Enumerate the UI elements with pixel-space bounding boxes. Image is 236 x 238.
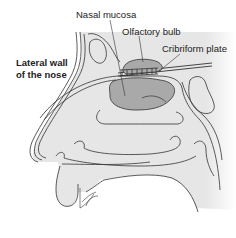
label-nasal-mucosa: Nasal mucosa [76,10,136,20]
label-lateral-wall: Lateral wall of the nose [16,57,76,81]
anatomy-illustration [0,0,236,238]
label-olfactory-bulb: Olfactory bulb [122,27,181,37]
nasal-cavity-diagram: Nasal mucosa Olfactory bulb Cribriform p… [0,0,236,238]
label-cribriform-plate: Cribriform plate [162,44,227,54]
label-lateral-wall-line2: of the nose [16,69,76,81]
label-lateral-wall-line1: Lateral wall [16,57,76,69]
